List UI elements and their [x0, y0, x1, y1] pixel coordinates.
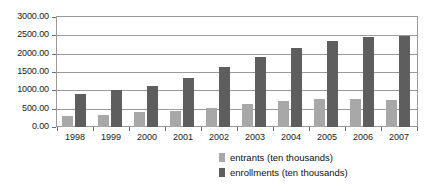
bar-entrants — [314, 99, 325, 127]
y-tick-label: 2500.00 — [17, 30, 49, 39]
x-tick-label-2001: 2001 — [165, 132, 201, 142]
legend-swatch-entrants — [219, 153, 225, 162]
x-tick-mark — [381, 127, 382, 131]
bars-layer — [57, 17, 417, 127]
x-tick-label-2000: 2000 — [129, 132, 165, 142]
x-tick-label-2003: 2003 — [237, 132, 273, 142]
bar-entrants — [170, 111, 181, 127]
x-tick-mark — [309, 127, 310, 131]
bar-enrollments — [255, 57, 266, 127]
x-tick-mark — [237, 127, 238, 131]
bar-enrollments — [147, 86, 158, 127]
y-tick-label: 3000.00 — [17, 12, 49, 21]
x-tick-mark — [345, 127, 346, 131]
bar-entrants — [134, 112, 145, 127]
bar-enrollments — [291, 48, 302, 127]
x-axis: 1998199920002001200220032004200520062007 — [57, 127, 417, 147]
chart-legend: entrants (ten thousands)enrollments (ten… — [219, 150, 419, 180]
bar-entrants — [350, 99, 361, 127]
y-tick-label: 500.00 — [22, 104, 49, 113]
bar-group — [237, 17, 273, 127]
bar-entrants — [206, 108, 217, 127]
y-tick-mark — [52, 127, 56, 128]
legend-swatch-enrollments — [219, 168, 225, 177]
y-tick-label: 1000.00 — [17, 85, 49, 94]
bar-enrollments — [75, 94, 86, 127]
bar-entrants — [242, 104, 253, 127]
y-tick-label: 1500.00 — [17, 67, 49, 76]
x-tick-mark — [201, 127, 202, 131]
x-tick-mark — [129, 127, 130, 131]
x-tick-label-2007: 2007 — [381, 132, 417, 142]
y-tick-label: 2000.00 — [17, 49, 49, 58]
bar-group — [93, 17, 129, 127]
bar-enrollments — [399, 36, 410, 127]
x-tick-label-2006: 2006 — [345, 132, 381, 142]
x-tick-mark — [273, 127, 274, 131]
bar-enrollments — [183, 78, 194, 127]
bar-entrants — [278, 101, 289, 127]
bar-chart: 0.00500.001000.001500.002000.002500.0030… — [0, 0, 426, 195]
x-tick-mark — [417, 127, 418, 131]
bar-enrollments — [111, 90, 122, 127]
x-tick-label-2004: 2004 — [273, 132, 309, 142]
x-tick-label-2002: 2002 — [201, 132, 237, 142]
x-tick-label-2005: 2005 — [309, 132, 345, 142]
bar-group — [165, 17, 201, 127]
legend-label: enrollments (ten thousands) — [230, 167, 348, 178]
bar-group — [309, 17, 345, 127]
x-tick-label-1998: 1998 — [57, 132, 93, 142]
bar-enrollments — [219, 67, 230, 127]
x-tick-label-1999: 1999 — [93, 132, 129, 142]
bar-group — [129, 17, 165, 127]
legend-item[interactable]: enrollments (ten thousands) — [219, 165, 419, 180]
bar-group — [201, 17, 237, 127]
bar-entrants — [386, 100, 397, 127]
x-tick-mark — [93, 127, 94, 131]
y-tick-label: 0.00 — [32, 122, 49, 131]
bar-entrants — [62, 116, 73, 127]
legend-item[interactable]: entrants (ten thousands) — [219, 150, 419, 165]
bar-entrants — [98, 115, 109, 127]
legend-label: entrants (ten thousands) — [230, 152, 333, 163]
bar-group — [345, 17, 381, 127]
bar-group — [381, 17, 417, 127]
bar-group — [273, 17, 309, 127]
x-tick-mark — [57, 127, 58, 131]
y-axis: 0.00500.001000.001500.002000.002500.0030… — [0, 0, 56, 143]
x-tick-mark — [165, 127, 166, 131]
bar-group — [57, 17, 93, 127]
bar-enrollments — [327, 41, 338, 127]
bar-enrollments — [363, 37, 374, 127]
